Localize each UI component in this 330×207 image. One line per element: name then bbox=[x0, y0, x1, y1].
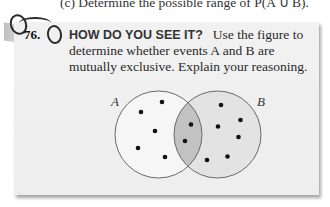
venn-diagram bbox=[0, 0, 330, 207]
label-b: B bbox=[257, 94, 265, 110]
label-a: A bbox=[111, 94, 119, 110]
